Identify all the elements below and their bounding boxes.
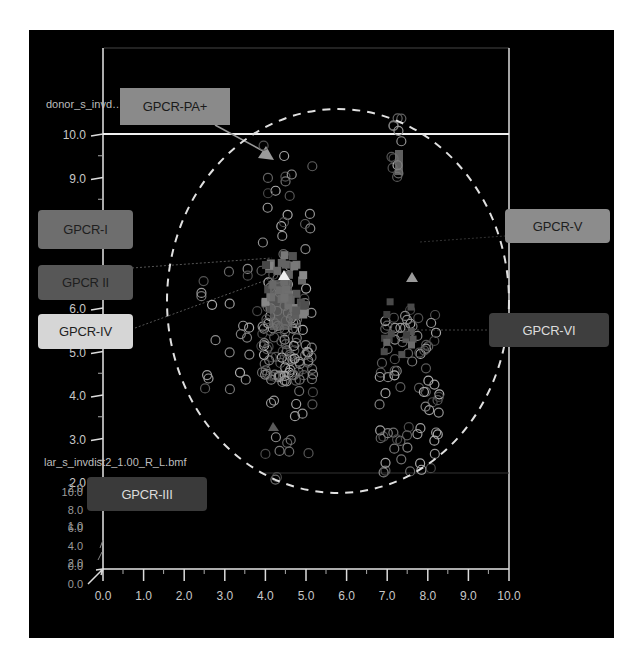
square-point [289,252,297,260]
data-point [302,284,311,293]
data-point [225,299,234,308]
x-tick-label: 10.0 [497,589,521,603]
data-point [396,383,405,392]
label-gpcr-i[interactable]: GPCR-I [38,210,133,249]
data-point [267,399,276,408]
label-gpcr-iii[interactable]: GPCR-III [87,477,207,511]
square-point [299,271,307,279]
data-point [301,245,310,254]
series-label-bottom: lar_s_invdist2_1.00_R_L.bmf [44,456,187,468]
data-point [406,467,415,476]
data-point [245,323,254,332]
data-point [430,449,439,458]
data-point [245,350,254,359]
data-point [393,435,402,444]
data-point [432,328,441,337]
y-axis-ticks: 2.03.04.05.06.09.010.0 [63,128,103,490]
data-point [271,433,280,442]
data-point [225,348,234,357]
data-point [285,447,294,456]
data-point [305,209,314,218]
x-tick-label: 5.0 [298,589,315,603]
square-point [278,259,286,267]
data-point [260,350,269,359]
data-point [416,459,425,468]
secondary-y-tick-label: 6.0 [68,522,83,534]
leader-line-gpcr-v [420,236,505,242]
label-gpcr-iv[interactable]: GPCR-IV [38,314,133,349]
data-point [295,387,304,396]
secondary-y-tick-label: 4.0 [68,540,83,552]
square-point [403,332,410,339]
dashed-ellipse-overlay [167,109,509,493]
x-tick-label: 8.0 [419,589,436,603]
square-point [290,262,298,270]
data-point [224,267,233,276]
data-point [211,336,220,345]
square-point [381,348,388,355]
square-point [292,306,300,314]
y-tick [91,308,103,310]
data-point [389,313,398,322]
x-tick-label: 7.0 [379,589,396,603]
square-point [388,330,395,337]
square-point [280,251,288,259]
data-point [201,384,210,393]
data-point [421,402,430,411]
data-point [243,271,252,280]
secondary-y-tick-label: 10.0 [62,486,83,498]
square-point [383,339,390,346]
data-point [263,173,272,182]
data-point [389,121,398,130]
data-point [261,449,270,458]
square-point [262,261,270,269]
label-gpcr-v[interactable]: GPCR-V [505,209,610,243]
x-tick-label: 9.0 [460,589,477,603]
dense-region [270,280,292,330]
data-point [258,238,267,247]
square-point [398,351,405,358]
triangle-marker-gpcr-v [406,272,418,282]
secondary-y-tick-label: 0.0 [68,578,83,590]
dense-region [395,150,403,175]
data-point [403,443,412,452]
data-point [425,406,434,415]
data-point [199,277,208,286]
secondary-y-tick-label: 8.0 [68,504,83,516]
x-tick-label: 0.0 [95,589,112,603]
y-tick [91,352,103,354]
x-axis-ticks: 0.01.02.03.04.05.06.07.08.09.010.0 [95,569,521,603]
data-point [377,358,386,367]
secondary-y-axis-ticks: 2.010.08.01.06.04.02.00.00.0 [62,482,83,590]
y-tick-label: 4.0 [69,389,86,403]
y-tick [91,395,103,397]
triangle-marker-gpcr-iii [268,422,279,431]
data-point [397,455,406,464]
square-point [407,304,414,311]
chart-panel: 0.01.02.03.04.05.06.07.08.09.010.0 2.03.… [29,30,614,638]
x-tick-label: 1.0 [135,589,152,603]
y-tick [91,134,103,136]
data-point [298,325,307,334]
label-gpcr-vi[interactable]: GPCR-VI [489,313,609,347]
y-tick [91,178,103,180]
data-points [197,114,444,484]
data-point [253,307,262,316]
label-gpcr-ii[interactable]: GPCR II [38,265,133,300]
label-gpcr-pa[interactable]: GPCR-PA+ [120,88,230,125]
data-point [278,231,287,240]
data-point [280,151,289,160]
data-point [304,449,313,458]
data-point [403,431,412,440]
data-point [434,408,443,417]
y-tick-label: 3.0 [69,433,86,447]
y-tick [91,439,103,441]
data-point [426,464,435,473]
data-point [225,385,234,394]
data-point [308,162,317,171]
data-point [285,191,294,200]
square-point [301,301,309,309]
data-point [204,374,213,383]
square-point [273,267,281,275]
data-point [404,423,413,432]
